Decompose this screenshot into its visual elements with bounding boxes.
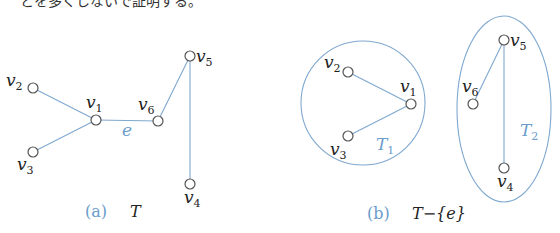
node-v6: [153, 116, 163, 126]
component-label-T2: T2: [520, 120, 538, 143]
node-v5: [185, 51, 195, 61]
caption-b-tag: (b): [367, 204, 390, 223]
node-v6-b: [468, 99, 478, 109]
label-v5-b: v5: [510, 30, 527, 53]
node-v1-b: [406, 99, 416, 109]
label-v4: v4: [184, 187, 201, 210]
top-text-clipped: とを多くしないで証明する。: [20, 0, 202, 9]
figure-b-forest: v2 v1 v3 v5 v6 v4 T1 T2: [301, 16, 551, 202]
node-v2: [28, 83, 38, 93]
label-v6: v6: [138, 94, 155, 117]
edge-v6-v5: [158, 56, 190, 121]
label-v2: v2: [6, 70, 23, 93]
caption-a-text: T: [130, 202, 142, 221]
label-v5: v5: [196, 46, 213, 69]
edge-v3-v1: [33, 120, 96, 152]
edge-label-e: e: [122, 120, 132, 140]
node-v2-b: [343, 67, 353, 77]
node-v5-b: [499, 35, 509, 45]
label-v1-b: v1: [400, 76, 417, 99]
caption-a-tag: (a): [85, 202, 107, 221]
component-label-T1: T1: [376, 134, 394, 157]
node-v3: [28, 147, 38, 157]
label-v3: v3: [17, 154, 34, 177]
node-v1: [91, 115, 101, 125]
figure-a-tree-T: v2 v1 v3 v6 v5 v4 e: [6, 46, 213, 210]
label-v3-b: v3: [330, 139, 347, 162]
label-v1: v1: [86, 92, 103, 115]
caption-b-text: T−{e}: [412, 204, 466, 223]
node-v3-b: [343, 131, 353, 141]
edge-v3-v1-b: [348, 104, 411, 136]
tree-figure: とを多くしないで証明する。 v2 v1 v3 v6 v5 v4 e (a) T: [0, 0, 560, 233]
label-v2-b: v2: [324, 52, 341, 75]
label-v6-b: v6: [462, 76, 479, 99]
label-v4-b: v4: [497, 171, 514, 194]
